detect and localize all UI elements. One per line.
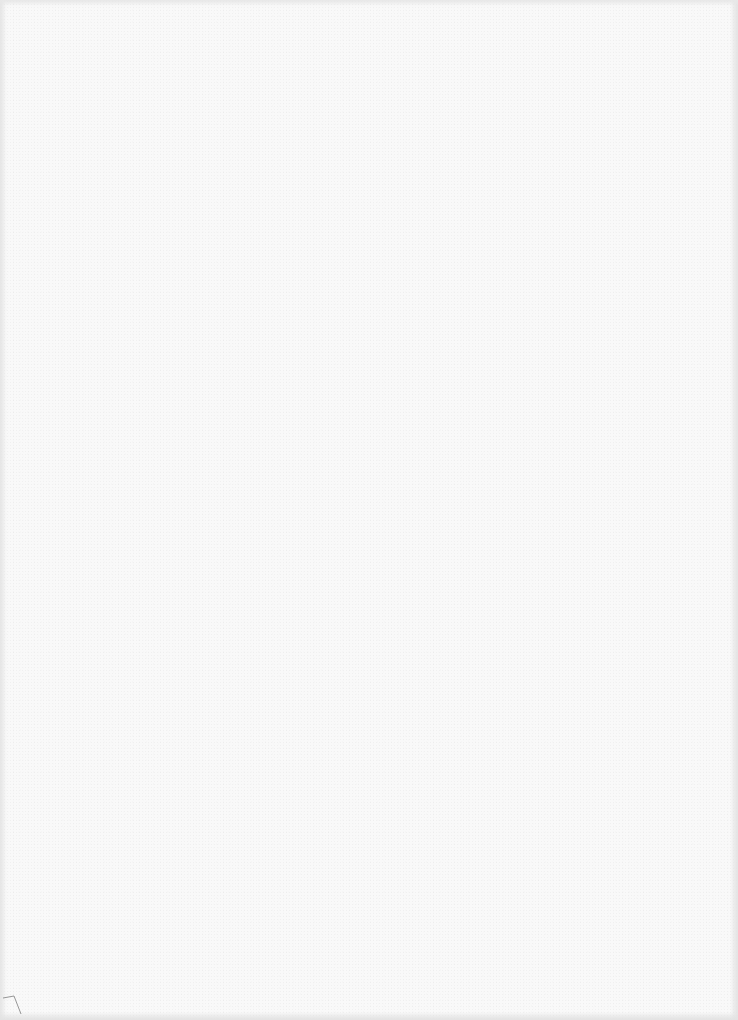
blank-scanned-page [0, 0, 738, 1020]
page-edge-left [0, 0, 6, 1020]
page-edge-right [730, 0, 738, 1020]
page-edge-top [0, 0, 738, 5]
page-edge-bottom [0, 1012, 738, 1020]
corner-fold-mark-icon [2, 994, 24, 1016]
